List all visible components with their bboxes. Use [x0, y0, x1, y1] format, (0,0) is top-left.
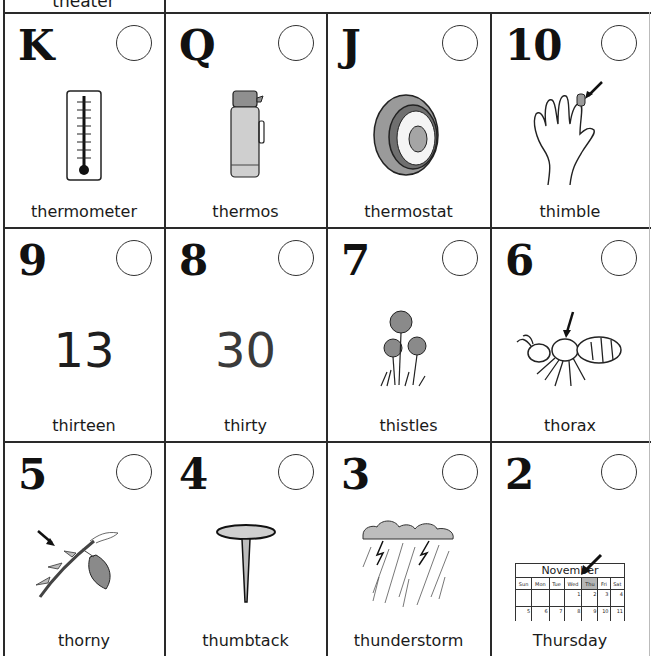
answer-circle[interactable] — [278, 240, 314, 276]
calendar-date: 5 — [516, 607, 532, 622]
thunderstorm-icon — [327, 504, 490, 624]
calendar-date — [549, 590, 564, 607]
card-index: 8 — [179, 240, 207, 282]
calendar-date: 4 — [610, 590, 624, 607]
card-index: Q — [179, 25, 215, 67]
calendar-date: 6 — [532, 607, 549, 622]
calendar-date: 3 — [598, 590, 610, 607]
card-thistles[interactable]: 7 thistles — [327, 228, 490, 441]
card-thirty[interactable]: 8 30 thirty — [165, 228, 326, 441]
thermos-icon — [165, 75, 326, 195]
calendar-date — [516, 590, 532, 607]
card-thursday[interactable]: 2 November Sun Mon Tue Wed Thu Fri Sat — [491, 442, 649, 656]
ant-thorax-icon — [491, 290, 649, 410]
card-index: 5 — [18, 454, 46, 496]
thermometer-icon — [4, 75, 164, 195]
card-thunderstorm[interactable]: 3 thunderstorm — [327, 442, 490, 656]
card-thermos[interactable]: Q thermos — [165, 13, 326, 227]
card-thorny[interactable]: 5 thorny — [4, 442, 164, 656]
calendar-date: 7 — [549, 607, 564, 622]
calendar-month: November — [516, 564, 625, 578]
answer-circle[interactable] — [601, 454, 637, 490]
card-thorax[interactable]: 6 thorax — [491, 228, 649, 441]
answer-circle[interactable] — [116, 454, 152, 490]
partial-card-label: theater — [3, 0, 164, 11]
card-word: Thursday — [491, 631, 649, 650]
card-index: 9 — [18, 240, 46, 282]
answer-circle[interactable] — [601, 25, 637, 61]
calendar-date — [532, 590, 549, 607]
thumbtack-icon — [165, 504, 326, 624]
card-word: thermometer — [4, 202, 164, 221]
calendar-date: 11 — [610, 607, 624, 622]
card-index: 10 — [505, 25, 561, 67]
card-word: thumbtack — [165, 631, 326, 650]
card-word: thistles — [327, 416, 490, 435]
arrow-icon — [577, 553, 603, 579]
answer-circle[interactable] — [442, 454, 478, 490]
card-word: thorax — [491, 416, 649, 435]
answer-circle[interactable] — [278, 25, 314, 61]
answer-circle[interactable] — [442, 25, 478, 61]
card-index: 2 — [505, 454, 533, 496]
card-index: K — [18, 25, 54, 67]
calendar-date: 1 — [564, 590, 582, 607]
grid-line-right — [649, 12, 650, 656]
number-thirteen: 13 — [53, 322, 114, 378]
answer-circle[interactable] — [278, 454, 314, 490]
card-word: thermostat — [327, 202, 490, 221]
card-index: 4 — [179, 454, 207, 496]
calendar-day-header: Wed — [564, 578, 582, 590]
card-thermostat[interactable]: J thermostat — [327, 13, 490, 227]
calendar-date: 10 — [598, 607, 610, 622]
calendar-date: 9 — [582, 607, 598, 622]
card-thermometer[interactable]: K thermometer — [4, 13, 164, 227]
card-word: thunderstorm — [327, 631, 490, 650]
calendar-day-header-highlighted: Thu — [582, 578, 598, 590]
calendar-day-header: Tue — [549, 578, 564, 590]
answer-circle[interactable] — [442, 240, 478, 276]
card-word: thorny — [4, 631, 164, 650]
calendar-date: 2 — [582, 590, 598, 607]
calendar-day-header: Mon — [532, 578, 549, 590]
card-word: thimble — [491, 202, 649, 221]
answer-circle[interactable] — [116, 25, 152, 61]
card-word: thirteen — [4, 416, 164, 435]
card-thirteen[interactable]: 9 13 thirteen — [4, 228, 164, 441]
calendar-day-header: Sun — [516, 578, 532, 590]
number-thirty: 30 — [215, 322, 276, 378]
calendar-day-header: Fri — [598, 578, 610, 590]
thermostat-icon — [327, 75, 490, 195]
card-index: 7 — [341, 240, 369, 282]
card-index: 6 — [505, 240, 533, 282]
calendar-table: November Sun Mon Tue Wed Thu Fri Sat 1 2 — [515, 563, 625, 621]
card-index: 3 — [341, 454, 369, 496]
answer-circle[interactable] — [116, 240, 152, 276]
card-word: thermos — [165, 202, 326, 221]
thorny-stem-icon — [4, 504, 164, 624]
card-word: thirty — [165, 416, 326, 435]
card-thimble[interactable]: 10 thimble — [491, 13, 649, 227]
calendar-date: 8 — [564, 607, 582, 622]
card-index: J — [341, 25, 360, 67]
thimble-hand-icon — [491, 75, 649, 195]
calendar-day-header: Sat — [610, 578, 624, 590]
thistles-icon — [327, 290, 490, 410]
card-thumbtack[interactable]: 4 thumbtack — [165, 442, 326, 656]
answer-circle[interactable] — [601, 240, 637, 276]
